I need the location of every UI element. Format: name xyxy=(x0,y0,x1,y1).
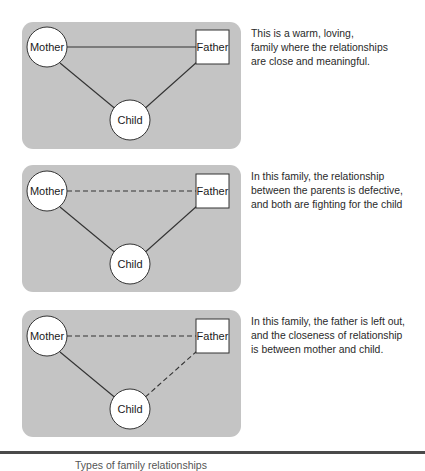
edge-father-child xyxy=(142,206,197,255)
panel-description: This is a warm, loving, family where the… xyxy=(251,27,421,69)
description-line: family where the relationships xyxy=(251,41,421,55)
edge-mother-child xyxy=(60,207,118,255)
description-line: and the closeness of relationship xyxy=(251,329,421,343)
child-label: Child xyxy=(117,403,142,415)
description-line: In this family, the father is left out, xyxy=(251,315,421,329)
description-line: In this family, the relationship xyxy=(251,170,421,184)
description-line: between the parents is defective, xyxy=(251,184,421,198)
mother-label: Mother xyxy=(30,185,65,197)
panel-description: In this family, the relationship between… xyxy=(251,170,421,212)
diagram-row-close-family: Mother Father Child This is a warm, lovi… xyxy=(0,22,425,152)
figure-caption: Types of family relationships xyxy=(75,459,207,471)
family-triangle-diagram: Mother Father Child xyxy=(22,165,241,292)
family-diagram-panel: Mother Father Child xyxy=(22,165,241,292)
family-diagram-panel: Mother Father Child xyxy=(22,22,241,149)
child-label: Child xyxy=(117,114,142,126)
mother-label: Mother xyxy=(30,41,65,53)
family-triangle-diagram: Mother Father Child xyxy=(22,22,241,149)
panel-description: In this family, the father is left out, … xyxy=(251,315,421,357)
diagram-row-parents-defective: Mother Father Child In this family, the … xyxy=(0,165,425,295)
diagram-row-father-left-out: Mother Father Child In this family, the … xyxy=(0,310,425,440)
edge-mother-child xyxy=(60,63,118,111)
child-label: Child xyxy=(117,258,142,270)
edge-mother-child xyxy=(60,352,118,400)
figure-divider xyxy=(0,451,425,454)
father-label: Father xyxy=(197,185,229,197)
father-label: Father xyxy=(197,330,229,342)
family-triangle-diagram: Mother Father Child xyxy=(22,310,241,437)
description-line: and both are fighting for the child xyxy=(251,198,421,212)
edge-father-child xyxy=(142,62,197,111)
description-line: are close and meaningful. xyxy=(251,55,421,69)
father-label: Father xyxy=(197,41,229,53)
mother-label: Mother xyxy=(30,330,65,342)
family-diagram-panel: Mother Father Child xyxy=(22,310,241,437)
edge-father-child xyxy=(142,351,197,400)
description-line: This is a warm, loving, xyxy=(251,27,421,41)
description-line: is between mother and child. xyxy=(251,343,421,357)
